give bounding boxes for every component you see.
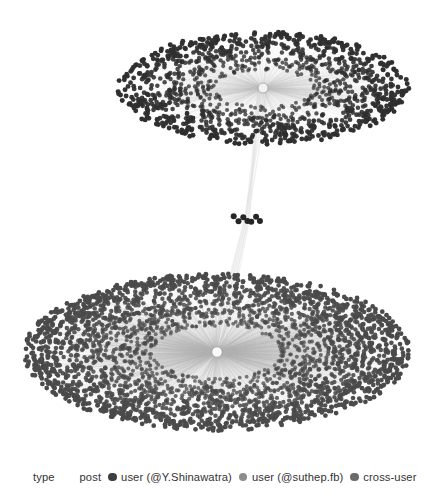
network-graph-canvas [0, 0, 437, 455]
legend-label-cross-user: cross-user [363, 471, 416, 483]
legend: type post user (@Y.Shinawatra) user (@su… [0, 462, 437, 492]
legend-title: type [33, 471, 55, 483]
legend-item-cross-user[interactable]: cross-user [350, 471, 416, 483]
legend-swatch-cross-user-icon [350, 473, 359, 482]
legend-label-user-suthepfb: user (@suthep.fb) [252, 471, 343, 483]
legend-swatch-user-suthepfb-icon [239, 473, 248, 482]
legend-label-post: post [80, 471, 102, 483]
legend-item-user-yshinawatra[interactable]: user (@Y.Shinawatra) [108, 471, 232, 483]
network-graph-figure: type post user (@Y.Shinawatra) user (@su… [0, 0, 437, 499]
legend-item-post[interactable]: post [80, 471, 102, 483]
legend-swatch-user-yshinawatra-icon [108, 473, 117, 482]
legend-item-user-suthepfb[interactable]: user (@suthep.fb) [239, 471, 343, 483]
legend-label-user-yshinawatra: user (@Y.Shinawatra) [121, 471, 232, 483]
